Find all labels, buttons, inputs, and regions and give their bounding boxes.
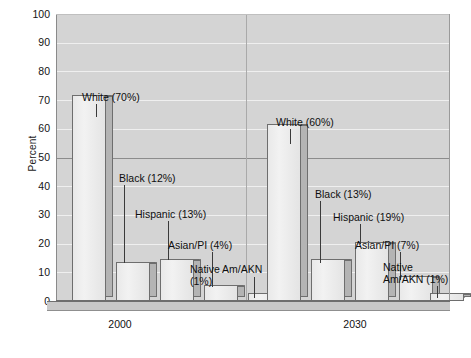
callout-2000-black: Black (12%) <box>119 172 176 184</box>
y-tick-80: 80 <box>6 66 50 76</box>
y-tick-70: 70 <box>6 95 50 105</box>
y-tick-60: 60 <box>6 123 50 133</box>
bar-side-face <box>464 294 471 297</box>
leader-2030-black <box>320 201 321 263</box>
y-tick-30: 30 <box>6 209 50 219</box>
callout-2030-white: White (60%) <box>276 116 334 128</box>
bar-side-face <box>301 125 308 297</box>
callout-2030-black: Black (13%) <box>315 188 372 200</box>
callout-2000-asian: Asian/PI (4%) <box>168 239 232 251</box>
callout-2000-white: White (70%) <box>82 91 140 103</box>
y-tick-100: 100 <box>6 9 50 19</box>
bar-2000-asian <box>204 285 238 301</box>
group-divider <box>246 14 247 301</box>
bar-front-face <box>116 262 150 301</box>
callout-2000-hispanic: Hispanic (13%) <box>135 208 206 220</box>
bar-front-face <box>160 259 194 301</box>
bar-2000-hispanic <box>160 259 194 301</box>
y-tick-40: 40 <box>6 181 50 191</box>
x-tick-2000: 2000 <box>80 318 160 330</box>
leader-2030-native <box>437 286 438 298</box>
bar-front-face <box>204 285 238 301</box>
bar-2030-black <box>311 259 345 301</box>
x-tick-2030: 2030 <box>315 318 395 330</box>
y-tick-0: 0 <box>6 296 50 306</box>
leader-2000-white <box>96 104 97 117</box>
callout-2030-hispanic: Hispanic (19%) <box>333 211 404 223</box>
bar-front-face <box>311 259 345 301</box>
bar-2000-black <box>116 262 150 301</box>
callout-2030-native-line2: Am/AKN (1%) <box>383 273 448 285</box>
gridline-90 <box>57 43 450 44</box>
plot-top-border <box>56 14 450 15</box>
gridline-80 <box>57 71 450 72</box>
callout-2030-native-line1: Native <box>383 261 413 273</box>
y-tick-20: 20 <box>6 238 50 248</box>
gridline-60 <box>57 129 450 130</box>
gridline-40 <box>57 186 450 187</box>
callout-2000-native: Native Am/AKN (1%) <box>190 263 276 287</box>
bar-2000-white <box>72 95 106 301</box>
y-axis-ticks: 100 90 80 70 60 50 40 30 20 10 0 <box>0 0 50 358</box>
leader-2030-white <box>290 129 291 144</box>
y-tick-10: 10 <box>6 267 50 277</box>
bar-front-face <box>72 95 106 301</box>
gridline-50 <box>57 158 450 159</box>
bar-side-face <box>106 96 113 297</box>
bar-side-face <box>150 263 157 297</box>
leader-2000-black <box>124 185 125 263</box>
callout-2000-native-line2: (1%) <box>190 275 212 287</box>
callout-2030-native: Native Am/AKN (1%) <box>383 261 467 285</box>
y-tick-50: 50 <box>6 152 50 162</box>
plot-area <box>56 14 450 301</box>
plot-right-border <box>449 14 450 301</box>
leader-2000-native <box>254 277 255 298</box>
callout-2000-native-line1: Native Am/AKN <box>190 263 262 275</box>
bar-side-face <box>238 286 245 297</box>
y-tick-90: 90 <box>6 37 50 47</box>
plot-floor <box>47 301 450 311</box>
bar-side-face <box>345 260 352 297</box>
callout-2030-asian: Asian/PI (7%) <box>355 239 419 251</box>
